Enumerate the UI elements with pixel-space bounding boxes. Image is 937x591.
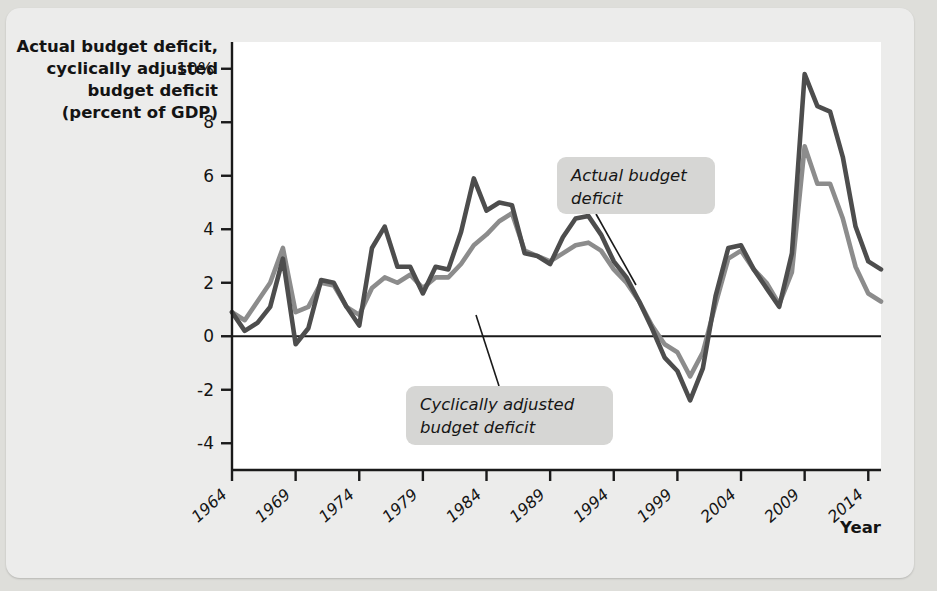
x-tick-label: 1974 <box>315 485 358 526</box>
x-tick-label: 1984 <box>442 485 485 526</box>
y-axis-title: Actual budget deficit, cyclically adjust… <box>16 37 218 122</box>
y-tick-label: -4 <box>197 433 214 453</box>
x-axis-title: Year <box>839 518 882 537</box>
x-tick-label: 1989 <box>506 485 549 526</box>
y-tick-label: 10% <box>176 59 214 79</box>
x-tick-label: 1969 <box>251 485 294 526</box>
y-axis-title-line-4: (percent of GDP) <box>62 103 218 122</box>
x-tick-label: 1979 <box>379 485 422 526</box>
y-tick-label: -2 <box>197 380 214 400</box>
y-tick-label: 4 <box>203 219 214 239</box>
y-axis-title-line-1: Actual budget deficit, <box>16 37 218 56</box>
y-tick-label: 0 <box>203 326 214 346</box>
x-tick-label: 2009 <box>760 485 803 526</box>
figure-card: Actual budget deficit, cyclically adjust… <box>6 8 914 578</box>
x-tick-label: 2004 <box>697 485 740 526</box>
x-tick-label: 1999 <box>633 485 676 526</box>
y-axis-title-line-3: budget deficit <box>87 81 218 100</box>
y-tick-label: 2 <box>203 273 214 293</box>
x-tick-label: 1994 <box>569 485 612 526</box>
y-tick-label: 6 <box>203 166 214 186</box>
x-tick-label: 1964 <box>188 485 231 526</box>
actual-budget-deficit-callout-text-line-1: Actual budget <box>570 166 687 185</box>
cyclically-adjusted-budget-deficit-callout-text-line-1: Cyclically adjusted <box>420 395 575 414</box>
y-tick-label: 8 <box>203 112 214 132</box>
cyclically-adjusted-budget-deficit-callout-text-line-2: budget deficit <box>420 418 536 437</box>
budget-deficit-line-chart: Actual budget deficit, cyclically adjust… <box>6 8 914 578</box>
actual-budget-deficit-callout-text-line-2: deficit <box>571 189 623 208</box>
